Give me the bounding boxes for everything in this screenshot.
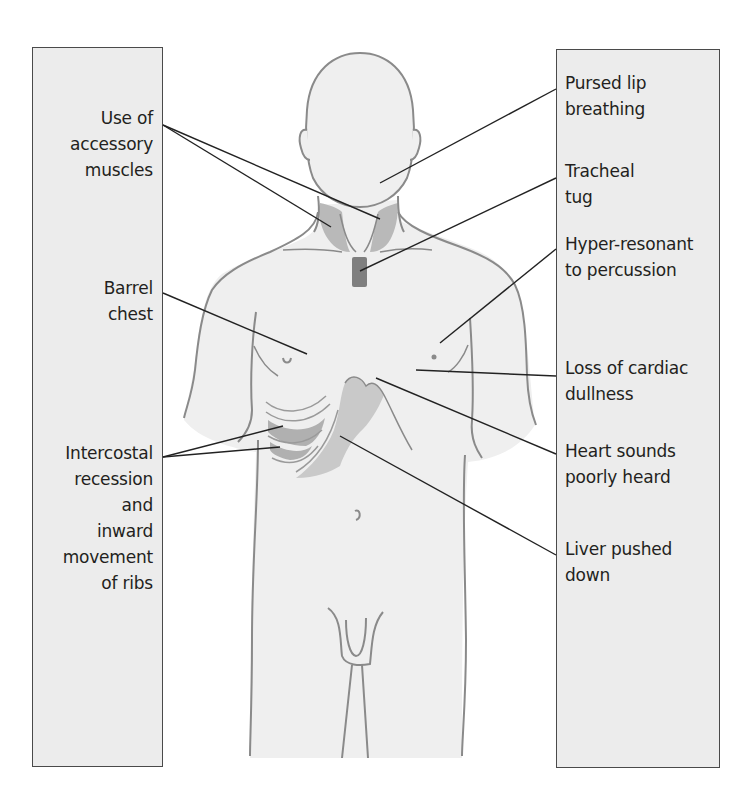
label-barrel-chest: Barrel chest (104, 275, 153, 327)
label-heart-sounds: Heart sounds poorly heard (565, 438, 676, 490)
label-tracheal-tug: Tracheal tug (565, 158, 634, 210)
head (306, 53, 414, 207)
label-hyper-resonant: Hyper-resonant to percussion (565, 231, 693, 283)
label-liver-pushed-down: Liver pushed down (565, 536, 672, 588)
trachea (352, 257, 367, 287)
label-loss-of-cardiac-dullness: Loss of cardiac dullness (565, 355, 688, 407)
label-accessory-muscles: Use of accessory muscles (70, 105, 153, 183)
right-nipple (432, 355, 437, 360)
copd-signs-diagram: Use of accessory muscles Barrel chest In… (0, 0, 746, 803)
label-pursed-lip-breathing: Pursed lip breathing (565, 70, 646, 122)
label-intercostal-recession: Intercostal recession and inward movemen… (63, 440, 153, 596)
